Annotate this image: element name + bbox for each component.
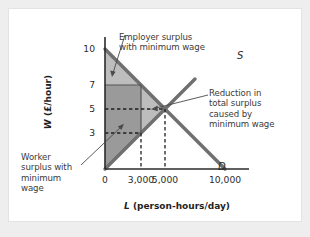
y-tick-3: 3 xyxy=(67,127,95,138)
leader-line-reduction xyxy=(156,95,208,108)
y-tick-7: 7 xyxy=(67,79,95,90)
annotation-total-surplus-reduction: Reduction in total surplus caused by min… xyxy=(209,88,274,130)
annotation-employer-surplus: Employer surplus with minimum wage xyxy=(119,32,205,53)
supply-curve-label: S xyxy=(237,50,243,61)
figure-container: 10 7 5 3 0 3,000 5,000 10,000 S D Employ… xyxy=(0,0,310,237)
demand-curve-label: D xyxy=(218,161,226,172)
worker-surplus-region xyxy=(105,85,141,169)
x-tick-10000: 10,000 xyxy=(201,174,249,185)
y-tick-5: 5 xyxy=(67,103,95,114)
y-axis-title: W (£/hour) xyxy=(43,62,53,142)
y-axis-title-units: (£/hour) xyxy=(43,75,53,116)
annotation-worker-surplus: Worker surplus with minimum wage xyxy=(21,152,72,194)
y-tick-10: 10 xyxy=(67,43,95,54)
x-axis-title-units: (person-hours/day) xyxy=(133,201,230,211)
y-axis-title-var: W xyxy=(43,119,53,129)
x-axis-title: L (person-hours/day) xyxy=(102,201,252,211)
figure-panel: 10 7 5 3 0 3,000 5,000 10,000 S D Employ… xyxy=(9,9,301,221)
x-tick-5000: 5,000 xyxy=(144,174,186,185)
x-tick-0: 0 xyxy=(95,174,115,185)
x-axis-title-var: L xyxy=(124,201,130,211)
